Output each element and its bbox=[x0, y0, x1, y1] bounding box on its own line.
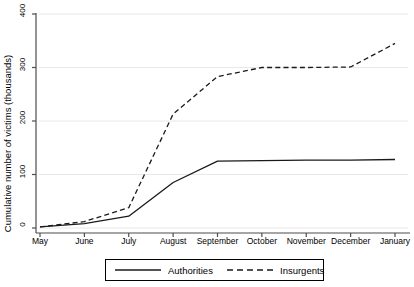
legend-item-insurgents: Insurgents bbox=[226, 260, 324, 280]
y-tick-label: 400 bbox=[18, 0, 27, 22]
series-line-insurgents bbox=[40, 43, 395, 227]
y-tick-label: 100 bbox=[18, 160, 27, 182]
series-line-authorities bbox=[40, 160, 395, 227]
legend-dashed-line-icon bbox=[226, 265, 274, 275]
legend-label-insurgents: Insurgents bbox=[280, 265, 324, 276]
chart-figure: Cumulative number of victims (thousands)… bbox=[0, 0, 414, 287]
legend-item-authorities: Authorities bbox=[114, 260, 213, 280]
x-tick-label: January bbox=[364, 236, 414, 246]
y-tick-label: 0 bbox=[18, 214, 27, 236]
y-tick-label: 300 bbox=[18, 53, 27, 75]
legend-label-authorities: Authorities bbox=[168, 265, 213, 276]
legend-solid-line-icon bbox=[114, 265, 162, 275]
chart-legend: Authorities Insurgents bbox=[105, 259, 324, 281]
y-tick-label: 200 bbox=[18, 107, 27, 129]
